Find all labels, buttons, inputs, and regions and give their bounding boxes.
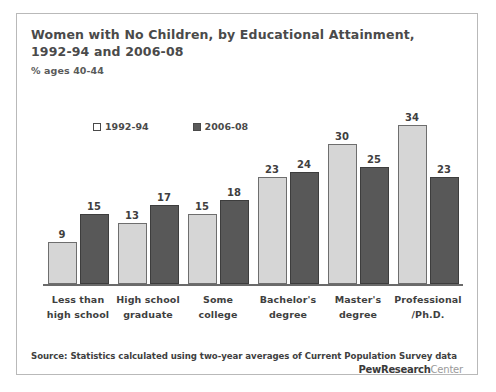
bar-value-label: 23 [265,164,279,175]
bar-1992-94-Less than high school: 9 [48,242,77,284]
bar-2006-08-Professional /Ph.D.: 23 [430,177,459,284]
chart-title-line-1: Women with No Children, by Educational A… [31,26,461,43]
bar-1992-94-High school graduate: 13 [118,223,147,284]
category-label-line: college [183,307,253,322]
pew-research-center-logo: PewResearchCenter [359,364,463,375]
category-label-line: degree [253,307,323,322]
chart-title-line-2: 1992-94 and 2006-08 [31,43,461,60]
category-label-2: High schoolgraduate [113,292,183,322]
bar-value-label: 15 [195,201,209,212]
category-label-line: graduate [113,307,183,322]
logo-bold-text: PewResearch [359,364,431,375]
bar-1992-94-Some college: 15 [188,214,217,284]
category-label-line: Less than [43,292,113,307]
chart-subtitle: % ages 40-44 [31,65,461,76]
category-label-line: High school [113,292,183,307]
bar-group: 915 [48,114,109,284]
bar-value-label: 13 [125,210,139,221]
category-label-line: Master's [323,292,393,307]
bar-1992-94-Bachelor's degree: 23 [258,177,287,284]
bar-value-label: 25 [367,154,381,165]
category-label-line: high school [43,307,113,322]
bar-2006-08-High school graduate: 17 [150,205,179,284]
category-label-line: degree [323,307,393,322]
category-label-4: Bachelor'sdegree [253,292,323,322]
bar-2006-08-Less than high school: 15 [80,214,109,284]
logo-light-text: Center [431,364,463,375]
plot-area: 91513171518232430253423 [43,114,463,286]
category-label-3: Somecollege [183,292,253,322]
bar-value-label: 34 [405,112,419,123]
bar-group: 3025 [328,114,389,284]
bar-value-label: 30 [335,131,349,142]
bar-group: 3423 [398,114,459,284]
bar-group: 2324 [258,114,319,284]
bar-2006-08-Bachelor's degree: 24 [290,172,319,284]
chart-figure: Women with No Children, by Educational A… [16,13,478,375]
category-label-6: Professional/Ph.D. [393,292,463,322]
bar-value-label: 24 [297,159,311,170]
bar-value-label: 17 [157,192,171,203]
source-note: Source: Statistics calculated using two-… [31,351,457,361]
category-label-line: Bachelor's [253,292,323,307]
title-block: Women with No Children, by Educational A… [31,26,461,76]
bar-1992-94-Master's degree: 30 [328,144,357,284]
bar-group: 1518 [188,114,249,284]
bar-value-label: 9 [59,229,66,240]
bar-value-label: 15 [87,201,101,212]
bar-2006-08-Master's degree: 25 [360,167,389,284]
bar-value-label: 18 [227,187,241,198]
category-label-line: Some [183,292,253,307]
bar-1992-94-Professional /Ph.D.: 34 [398,125,427,284]
category-label-1: Less thanhigh school [43,292,113,322]
category-label-line: /Ph.D. [393,307,463,322]
bar-value-label: 23 [437,164,451,175]
bar-2006-08-Some college: 18 [220,200,249,284]
category-label-line: Professional [393,292,463,307]
bar-group: 1317 [118,114,179,284]
x-axis-line [43,284,463,286]
category-axis-labels: Less thanhigh schoolHigh schoolgraduateS… [43,292,463,338]
category-label-5: Master'sdegree [323,292,393,322]
